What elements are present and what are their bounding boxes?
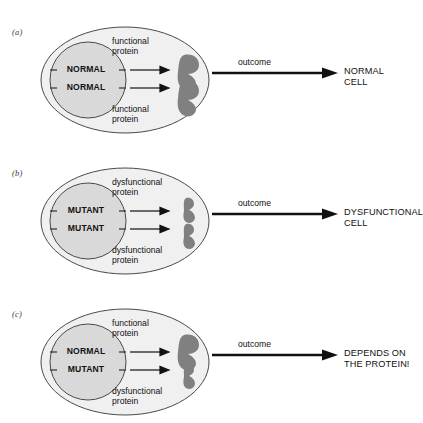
gene-label-a-top: NORMAL bbox=[55, 64, 117, 74]
panel-label-b: (b) bbox=[12, 168, 23, 178]
gene-label-b-top: MUTANT bbox=[55, 205, 117, 215]
panel-b: (b) MUTANT MUTANT dysfunctional protein … bbox=[0, 141, 413, 282]
gene-label-c-top: NORMAL bbox=[55, 346, 117, 356]
protein-caption-c-bottom: dysfunctional protein bbox=[112, 386, 162, 407]
outcome-arrow-b bbox=[212, 207, 340, 221]
panel-label-a: (a) bbox=[12, 27, 23, 37]
protein-caption-b-top: dysfunctional protein bbox=[112, 177, 162, 198]
outcome-arrow-a bbox=[212, 66, 340, 80]
protein-caption-b-bottom: dysfunctional protein bbox=[112, 245, 162, 266]
result-text-b: DYSFUNCTIONAL CELL bbox=[344, 207, 423, 229]
outcome-arrow-c bbox=[212, 348, 340, 362]
result-text-c: DEPENDS ON THE PROTEIN! bbox=[344, 348, 410, 370]
panel-c: (c) NORMAL MUTANT functional protein dys… bbox=[0, 282, 413, 423]
protein-caption-a-top: functional protein bbox=[112, 36, 149, 57]
gene-label-b-bottom: MUTANT bbox=[55, 223, 117, 233]
gene-label-c-bottom: MUTANT bbox=[55, 364, 117, 374]
result-text-a: NORMAL CELL bbox=[344, 66, 384, 88]
protein-caption-a-bottom: functional protein bbox=[112, 104, 149, 125]
panel-a: (a) NORMAL NORMAL functional protein fun… bbox=[0, 0, 413, 141]
gene-label-a-bottom: NORMAL bbox=[55, 82, 117, 92]
panel-label-c: (c) bbox=[12, 309, 22, 319]
protein-caption-c-top: functional protein bbox=[112, 318, 149, 339]
